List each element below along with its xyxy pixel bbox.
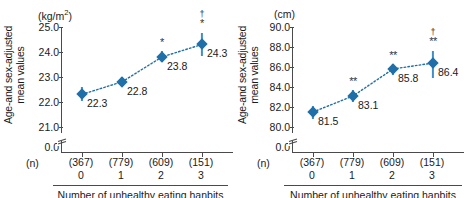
data-point-label: 24.3	[207, 48, 227, 59]
group-n-value: (779)	[340, 157, 365, 168]
data-point-label: 86.4	[438, 67, 458, 78]
y-axis-lower-stub	[292, 141, 293, 153]
n-prefix-label: (n)	[26, 157, 39, 169]
y-tick-label: 80.0	[270, 122, 290, 133]
data-point-label: 81.5	[318, 116, 338, 127]
x-axis-line	[292, 152, 464, 153]
y-axis-title-left: Age-and sex-adjusted mean values	[0, 0, 28, 150]
unit-label-left: (kg/m2)	[38, 8, 72, 22]
chart-panel-left: Age-and sex-adjusted mean values (kg/m2)…	[0, 0, 234, 198]
x-axis-caption: Number of unhealthy eating hanbits	[53, 189, 228, 198]
data-point-label: 22.3	[87, 98, 107, 109]
x-axis-group-label: (151)3	[189, 157, 214, 181]
chart-panel-right: Age-and sex-adjusted mean values (cm) 80…	[234, 0, 469, 198]
axis-break-icon	[57, 132, 68, 141]
data-point-label: 83.1	[358, 100, 378, 111]
unit-label-right: (cm)	[274, 8, 295, 20]
group-n-value: (779)	[109, 157, 134, 168]
y-axis-title-line1: Age-and sex-adjusted	[2, 26, 14, 124]
caption-rule	[53, 185, 228, 186]
group-n-value: (609)	[149, 157, 174, 168]
y-tick-label: 23.0	[39, 72, 59, 83]
plot-area-left: 22.322.823.8*24.3†*	[61, 27, 221, 133]
y-tick-label: 82.0	[270, 102, 290, 113]
group-category-value: 0	[69, 170, 94, 181]
group-category-value: 1	[109, 170, 134, 181]
group-n-value: (367)	[69, 157, 94, 168]
y-axis-title-line1: Age-and sex-adjusted	[236, 26, 248, 124]
y-tick-label: 86.0	[270, 62, 290, 73]
y-tick-label: 90.0	[270, 22, 290, 33]
data-point-label: 22.8	[127, 86, 147, 97]
x-axis-group-label: (367)0	[69, 157, 94, 181]
group-category-value: 3	[420, 170, 445, 181]
axis-break-icon	[288, 132, 299, 141]
caption-rule	[284, 185, 462, 186]
group-n-value: (151)	[189, 157, 214, 168]
y-tick-label: 24.0	[39, 47, 59, 58]
data-point-label: 23.8	[167, 61, 187, 72]
y-axis-title-line2: mean values	[14, 26, 26, 124]
group-category-value: 2	[149, 170, 174, 181]
group-n-value: (609)	[380, 157, 405, 168]
x-axis-caption: Number of unhealthy eating hanbits	[284, 189, 462, 198]
significance-marker: **	[349, 77, 357, 86]
group-category-value: 3	[189, 170, 214, 181]
x-axis-group-label: (779)1	[109, 157, 134, 181]
significance-marker: *	[160, 38, 164, 47]
group-category-value: 1	[340, 170, 365, 181]
group-n-value: (151)	[420, 157, 445, 168]
n-prefix-label: (n)	[257, 157, 270, 169]
group-n-value: (367)	[300, 157, 325, 168]
data-point-label: 85.8	[398, 73, 418, 84]
y-tick-label: 25.0	[39, 22, 59, 33]
group-category-value: 0	[300, 170, 325, 181]
significance-marker: †*	[199, 10, 204, 28]
group-category-value: 2	[380, 170, 405, 181]
x-axis-group-label: (151)3	[420, 157, 445, 181]
y-tick-label: 88.0	[270, 42, 290, 53]
y-axis-title-line2: mean values	[248, 26, 260, 124]
x-axis-group-label: (779)1	[340, 157, 365, 181]
x-axis-group-label: (609)2	[149, 157, 174, 181]
significance-marker: **	[389, 51, 397, 60]
x-axis-group-label: (609)2	[380, 157, 405, 181]
y-axis-title-right: Age-and sex-adjusted mean values	[234, 0, 262, 150]
plot-area-right: 81.583.1**85.8**86.4†**	[292, 27, 452, 133]
figure-container: Age-and sex-adjusted mean values (kg/m2)…	[0, 0, 469, 198]
x-axis-group-label: (367)0	[300, 157, 325, 181]
significance-marker: †**	[429, 28, 437, 46]
y-tick-label: 84.0	[270, 82, 290, 93]
y-tick-label: 21.0	[39, 122, 59, 133]
y-tick-label: 22.0	[39, 97, 59, 108]
y-axis-lower-stub	[61, 141, 62, 153]
x-axis-line	[61, 152, 233, 153]
